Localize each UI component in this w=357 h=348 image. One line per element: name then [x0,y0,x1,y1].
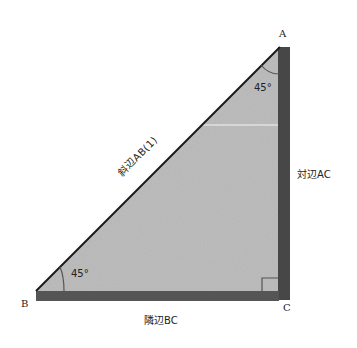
vertex-a-label: A [279,28,286,39]
angle-b-label: 45° [71,268,89,279]
vertex-b-label: B [21,298,28,309]
vertex-c-label: C [283,302,291,313]
angle-a-label: 45° [254,82,272,93]
opposite-side-label: 対辺AC [297,166,331,181]
side-ac-bar [278,47,290,300]
adjacent-side-label: 隣辺BC [144,312,178,327]
side-bc-bar [36,291,279,301]
